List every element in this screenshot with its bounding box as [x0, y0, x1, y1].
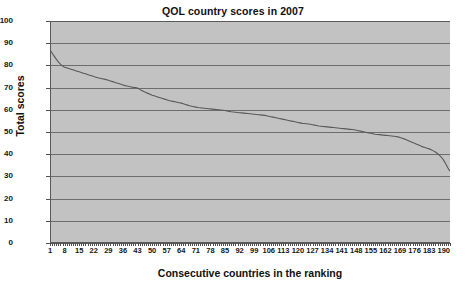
x-axis-tick-label: 113	[277, 246, 289, 255]
x-axis-tick-label: 15	[75, 246, 83, 255]
y-axis-tick-label: 50	[0, 127, 13, 136]
x-axis-tick-label: 36	[119, 246, 127, 255]
x-axis-tick-label: 190	[437, 246, 450, 255]
chart-container: QOL country scores in 2007 Total scores …	[0, 0, 466, 290]
x-axis-tick-label: 169	[394, 246, 407, 255]
x-axis-tick-label: 50	[148, 246, 156, 255]
x-axis-tick-label: 71	[192, 246, 200, 255]
y-axis-tick-label: 10	[0, 216, 13, 225]
x-axis-tick-label: 162	[379, 246, 392, 255]
y-axis-tick-label: 20	[0, 194, 13, 203]
x-axis-tick-label: 1	[48, 246, 52, 255]
x-axis-tick-label: 57	[162, 246, 170, 255]
x-axis-tick-label: 127	[306, 246, 319, 255]
x-axis-tick-label: 176	[408, 246, 421, 255]
y-axis-title: Total scores	[14, 56, 26, 156]
y-axis-tick-label: 60	[0, 105, 13, 114]
y-axis-tick-label: 30	[0, 171, 13, 180]
x-axis-tick-label: 43	[133, 246, 141, 255]
x-axis-tick-label: 148	[350, 246, 363, 255]
y-axis-tick-label: 90	[0, 38, 13, 47]
y-axis-tick-label: 0	[0, 238, 13, 247]
x-axis-tick-label: 183	[423, 246, 436, 255]
y-axis-tick-label: 40	[0, 149, 13, 158]
data-line-series	[50, 21, 450, 243]
x-axis-minor-tick	[450, 243, 451, 246]
x-axis-tick-label: 64	[177, 246, 185, 255]
x-axis-tick-label: 106	[262, 246, 275, 255]
y-axis-tick-label: 100	[0, 16, 13, 25]
chart-title: QOL country scores in 2007	[0, 5, 466, 17]
y-axis-tick-label: 70	[0, 83, 13, 92]
x-axis-tick-label: 85	[221, 246, 229, 255]
x-axis-tick-label: 99	[250, 246, 258, 255]
y-axis-tick-label: 80	[0, 60, 13, 69]
x-axis-tick-label: 78	[206, 246, 214, 255]
x-axis-tick-label: 155	[365, 246, 378, 255]
x-axis-tick-label: 134	[321, 246, 334, 255]
x-axis-tick-label: 120	[292, 246, 305, 255]
x-axis-title: Consecutive countries in the ranking	[50, 267, 450, 279]
x-axis-tick-label: 22	[90, 246, 98, 255]
x-axis-tick-labels: 1815222936435057647178859299106113120127…	[50, 246, 450, 260]
x-axis-tick-label: 92	[235, 246, 243, 255]
x-axis-tick-label: 8	[62, 246, 66, 255]
x-axis-tick-label: 29	[104, 246, 112, 255]
plot-area	[50, 21, 450, 243]
x-axis-tick-label: 141	[335, 246, 348, 255]
